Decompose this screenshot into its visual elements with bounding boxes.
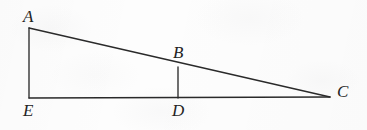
vertex-label-d: D xyxy=(172,102,184,119)
segment-ac xyxy=(29,28,330,97)
vertex-label-c: C xyxy=(337,83,348,100)
vertex-label-e: E xyxy=(23,102,33,119)
geometry-figure: A B C D E xyxy=(0,0,367,130)
segments-group xyxy=(29,28,330,98)
vertex-label-b: B xyxy=(173,44,183,61)
segment-ec xyxy=(29,97,330,98)
vertex-label-a: A xyxy=(23,8,33,25)
